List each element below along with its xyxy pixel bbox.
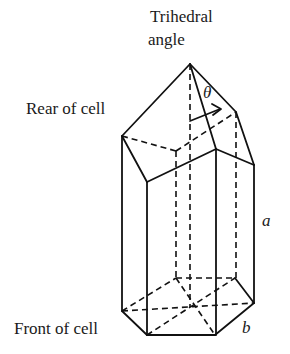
hidden-edges <box>122 64 254 335</box>
label-a: a <box>262 211 271 230</box>
label-b: b <box>242 318 251 337</box>
label-trihedral: Trihedral <box>150 7 213 26</box>
hexagonal-cell-diagram: Trihedral angle Rear of cell Front of ce… <box>0 0 290 354</box>
label-rear-of-cell: Rear of cell <box>26 99 106 118</box>
label-front-of-cell: Front of cell <box>14 319 98 338</box>
label-angle: angle <box>148 30 185 49</box>
